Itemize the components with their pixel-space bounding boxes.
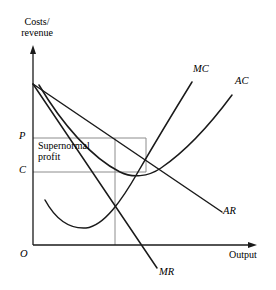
cost-axis-label: C — [19, 164, 26, 176]
supernormal-profit-annotation: Supernormal profit — [38, 140, 110, 162]
average-revenue-label: AR — [223, 205, 236, 217]
x-axis-arrowhead — [248, 242, 257, 248]
origin-label: O — [20, 248, 28, 260]
average-cost-label: AC — [235, 75, 248, 87]
supernormal-profit-line1: Supernormal — [38, 140, 110, 151]
supernormal-profit-line2: profit — [38, 151, 110, 162]
curves — [33, 82, 232, 268]
y-axis-title: Costs/ revenue — [14, 16, 60, 38]
x-axis-title: Output — [229, 249, 257, 260]
marginal-cost-label: MC — [193, 63, 209, 75]
y-axis-title-line2: revenue — [14, 27, 60, 38]
y-axis-arrowhead — [30, 45, 36, 54]
y-axis-title-line1: Costs/ — [14, 16, 60, 27]
marginal-revenue-label: MR — [159, 266, 174, 278]
price-axis-label: P — [19, 130, 25, 142]
economics-diagram: Costs/ revenue Output O P C Supernormal … — [0, 0, 276, 290]
